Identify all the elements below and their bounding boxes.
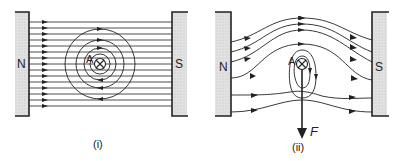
caption-ii: (ii) — [292, 141, 304, 153]
pole-label-s-ii: S — [375, 60, 383, 74]
diagram-canvas — [0, 0, 402, 161]
pole-label-n-ii: N — [219, 60, 228, 74]
pole-label-s-i: S — [175, 57, 183, 71]
conductor-current-into-page-i — [95, 59, 106, 70]
conductor-current-into-page-ii — [297, 59, 308, 70]
caption-i: (i) — [93, 138, 103, 150]
conductor-label-ii: A — [288, 55, 295, 67]
panel-ii — [215, 12, 389, 139]
field-direction-arrows — [42, 20, 48, 108]
panel-i — [15, 12, 188, 116]
conductor-label-i: A — [86, 53, 93, 65]
force-arrow — [297, 70, 307, 139]
pole-label-n-i: N — [17, 57, 26, 71]
force-label: F — [310, 124, 318, 139]
